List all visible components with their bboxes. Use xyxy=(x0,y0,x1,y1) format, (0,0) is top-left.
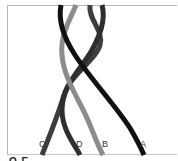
label-c: C xyxy=(39,140,46,149)
label-b: B xyxy=(102,140,108,149)
label-a: A xyxy=(140,140,146,149)
braid-diagram xyxy=(0,0,178,161)
label-d: D xyxy=(76,140,83,149)
caption-fragment: Q E xyxy=(9,156,29,161)
